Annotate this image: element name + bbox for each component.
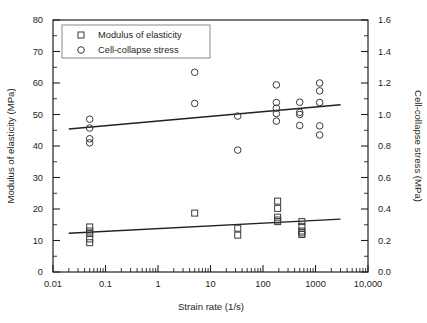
data-point-stress <box>316 132 323 139</box>
data-point-stress <box>273 118 280 125</box>
x-tick-label: 1 <box>155 279 160 289</box>
data-point-modulus <box>275 198 281 204</box>
x-tick-label: 100 <box>255 279 271 289</box>
trend-lines <box>69 105 341 234</box>
x-tick-label: 1000 <box>305 279 326 289</box>
y-tick-label: 70 <box>33 47 43 57</box>
y2-tick-label: 1.4 <box>378 47 391 57</box>
chart-figure: 0.010.1110100100010,000 0102030405060708… <box>0 0 427 323</box>
x-tick-label: 0.01 <box>44 279 62 289</box>
y2-tick-label: 0.2 <box>378 236 391 246</box>
data-point-stress <box>316 99 323 106</box>
data-point-stress <box>86 140 93 147</box>
data-point-modulus <box>235 232 241 238</box>
y-tick-label: 60 <box>33 78 43 88</box>
data-point-modulus <box>87 240 93 246</box>
legend-label: Modulus of elasticity <box>98 30 182 40</box>
x-axis-tick-labels: 0.010.1110100100010,000 <box>44 279 382 289</box>
y-tick-label: 50 <box>33 110 43 120</box>
data-point-stress <box>296 122 303 129</box>
x-tick-label: 10 <box>205 279 215 289</box>
scatter-plot-svg: 0.010.1110100100010,000 0102030405060708… <box>0 0 427 323</box>
data-point-modulus <box>192 210 198 216</box>
legend-label: Cell-collapse stress <box>98 45 179 55</box>
x-axis-title: Strain rate (1/s) <box>178 301 244 312</box>
data-point-stress <box>316 123 323 130</box>
y-axis-left-ticks <box>53 20 60 272</box>
y2-tick-label: 1.2 <box>378 78 391 88</box>
y-axis-left-tick-labels: 01020304050607080 <box>33 15 43 277</box>
data-points <box>86 69 323 246</box>
trend-line-stress <box>69 105 341 129</box>
data-point-stress <box>296 99 303 106</box>
data-point-modulus <box>235 225 241 231</box>
y2-tick-label: 0.4 <box>378 204 391 214</box>
data-point-stress <box>191 69 198 76</box>
data-point-stress <box>234 147 241 154</box>
y-tick-label: 20 <box>33 204 43 214</box>
data-point-stress <box>316 88 323 95</box>
y-axis-left-title: Modulus of elasticity (MPa) <box>5 88 16 203</box>
y2-tick-label: 0.6 <box>378 173 391 183</box>
y2-tick-label: 1.6 <box>378 15 391 25</box>
y-tick-label: 80 <box>33 15 43 25</box>
data-point-stress <box>316 80 323 87</box>
y2-tick-label: 1.0 <box>378 110 391 120</box>
y-tick-label: 30 <box>33 173 43 183</box>
data-point-modulus <box>87 224 93 230</box>
y-axis-right-title: Cell-collapse stress (MPa) <box>413 90 424 202</box>
data-point-stress <box>86 125 93 132</box>
chart-legend: Modulus of elasticityCell-collapse stres… <box>62 25 210 58</box>
y2-tick-label: 0.0 <box>378 267 391 277</box>
x-axis-ticks <box>53 265 368 272</box>
data-point-stress <box>86 116 93 123</box>
x-tick-label: 0.1 <box>99 279 112 289</box>
data-point-stress <box>191 100 198 107</box>
y2-tick-label: 0.8 <box>378 141 391 151</box>
data-point-modulus <box>299 230 305 236</box>
y-tick-label: 10 <box>33 236 43 246</box>
y-tick-label: 0 <box>38 267 43 277</box>
data-point-modulus <box>275 205 281 211</box>
y-axis-right-tick-labels: 0.00.20.40.60.81.01.21.41.6 <box>378 15 391 277</box>
x-tick-label: 10,000 <box>354 279 382 289</box>
y-axis-right-ticks <box>361 20 368 272</box>
data-point-stress <box>273 82 280 89</box>
y-tick-label: 40 <box>33 141 43 151</box>
